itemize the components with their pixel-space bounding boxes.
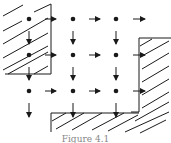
grid-dot: [114, 17, 119, 22]
path-grid-diagram: [0, 0, 171, 143]
grid-dot: [27, 89, 32, 94]
grid-dot: [27, 53, 32, 58]
grid-dot: [71, 53, 76, 58]
grid-dot: [71, 17, 76, 22]
bottom-obstacle: [51, 113, 139, 132]
grid-dots: [27, 17, 119, 94]
top-left-obstacle: [3, 4, 51, 74]
grid-dot: [27, 17, 32, 22]
grid-dot: [71, 89, 76, 94]
grid-dot: [114, 53, 119, 58]
grid-dot: [114, 89, 119, 94]
figure-caption: Figure 4.1: [0, 134, 171, 143]
